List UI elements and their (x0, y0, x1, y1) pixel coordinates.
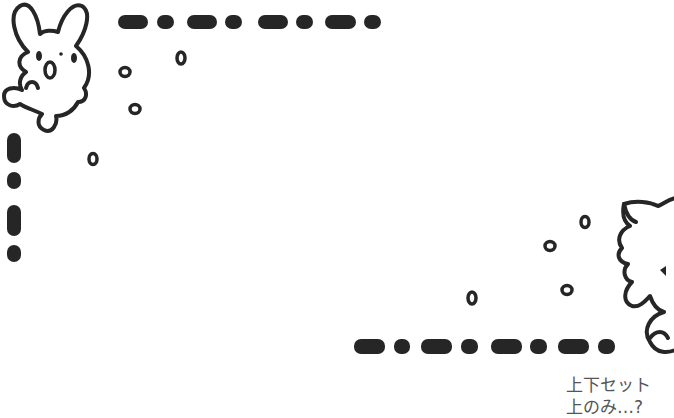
frame-illustration (0, 0, 674, 418)
caption-line-2: 上のみ…? (566, 396, 674, 418)
top-dash-border (118, 15, 381, 29)
left-dash-border (7, 133, 21, 262)
decorative-circles (89, 52, 589, 304)
caption-line-1: 上下セット (566, 374, 674, 396)
caption-text: 上下セット 上のみ…? (566, 374, 674, 418)
bottom-dash-border (354, 339, 615, 354)
